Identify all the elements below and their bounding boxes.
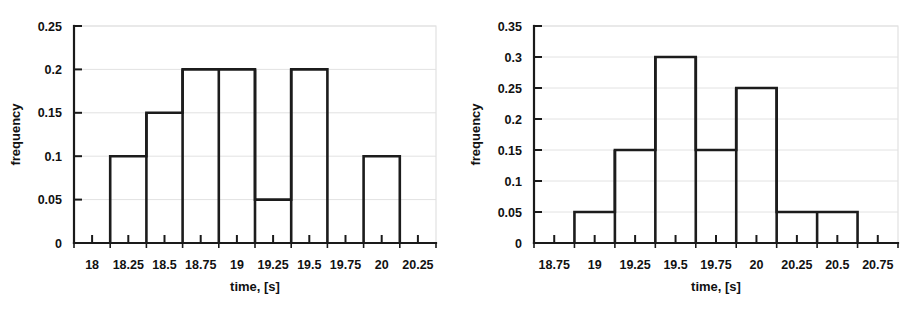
x-tick-label: 20 <box>375 258 389 272</box>
x-tick-label: 20.25 <box>781 258 812 272</box>
x-tick-label: 19.5 <box>297 258 321 272</box>
y-tick-label: 0.15 <box>498 144 522 158</box>
x-tick-label: 20.5 <box>825 258 849 272</box>
x-tick-label: 20.25 <box>402 258 433 272</box>
x-tick-label: 20 <box>749 258 763 272</box>
x-axis-title: time, [s] <box>230 279 280 294</box>
x-tick-label: 18.75 <box>539 258 570 272</box>
x-tick-label: 19.75 <box>330 258 361 272</box>
y-tick-label: 0 <box>515 237 522 251</box>
x-tick-label: 18.25 <box>113 258 144 272</box>
left-histogram-figure: 1818.2518.518.751919.2519.519.752020.250… <box>0 0 458 309</box>
x-tick-label: 19.25 <box>257 258 288 272</box>
x-tick-label: 19.75 <box>700 258 731 272</box>
y-axis-title: frequency <box>8 103 23 166</box>
x-tick-label: 18.75 <box>185 258 216 272</box>
x-axis-title: time, [s] <box>691 279 741 294</box>
figure-sheet: 1818.2518.518.751919.2519.519.752020.250… <box>0 0 916 309</box>
x-tick-label: 19 <box>230 258 244 272</box>
plot-border <box>534 26 898 243</box>
y-tick-label: 0.35 <box>498 20 522 34</box>
x-tick-label: 19 <box>588 258 602 272</box>
y-tick-label: 0.3 <box>505 51 522 65</box>
x-tick-label: 18 <box>85 258 99 272</box>
right-histogram-canvas: 18.751919.2519.519.752020.2520.520.7500.… <box>458 0 916 309</box>
y-tick-label: 0.1 <box>45 150 62 164</box>
x-tick-label: 19.5 <box>663 258 687 272</box>
x-tick-label: 19.25 <box>619 258 650 272</box>
y-tick-label: 0.2 <box>45 63 62 77</box>
y-tick-label: 0.25 <box>498 82 522 96</box>
left-histogram-canvas: 1818.2518.518.751919.2519.519.752020.250… <box>0 0 458 309</box>
y-tick-label: 0.25 <box>38 20 62 34</box>
y-tick-label: 0.1 <box>505 175 522 189</box>
y-axis-title: frequency <box>468 103 483 166</box>
right-histogram-figure: 18.751919.2519.519.752020.2520.520.7500.… <box>458 0 916 309</box>
y-tick-label: 0.05 <box>38 193 62 207</box>
y-tick-label: 0.05 <box>498 206 522 220</box>
x-tick-label: 18.5 <box>152 258 176 272</box>
y-tick-label: 0.2 <box>505 113 522 127</box>
x-tick-label: 20.75 <box>862 258 893 272</box>
y-tick-label: 0 <box>55 237 62 251</box>
y-tick-label: 0.15 <box>38 106 62 120</box>
